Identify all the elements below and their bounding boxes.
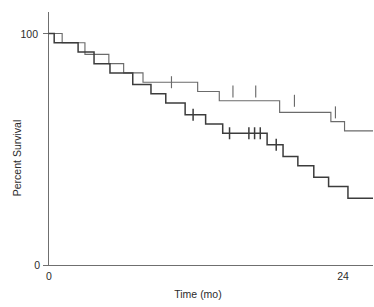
y-axis-title: Percent Survival [11, 120, 23, 196]
upper-survival-curve [49, 34, 374, 131]
x-tick-label-24: 24 [337, 270, 349, 282]
y-tick-label-100: 100 [20, 28, 38, 40]
kaplan-meier-plot: 100 0 0 24 Time (mo) Percent Survival [0, 0, 374, 307]
upper-survival-curve-path [49, 34, 374, 131]
series-layer [49, 34, 374, 199]
y-tick-label-0: 0 [34, 259, 40, 271]
survival-chart-figure: 100 0 0 24 Time (mo) Percent Survival [0, 0, 374, 307]
x-tick-label-0: 0 [46, 270, 52, 282]
lower-survival-curve [49, 34, 374, 199]
lower-survival-curve-path [49, 34, 374, 199]
x-axis-title: Time (mo) [174, 288, 221, 300]
axes-group [43, 12, 373, 266]
